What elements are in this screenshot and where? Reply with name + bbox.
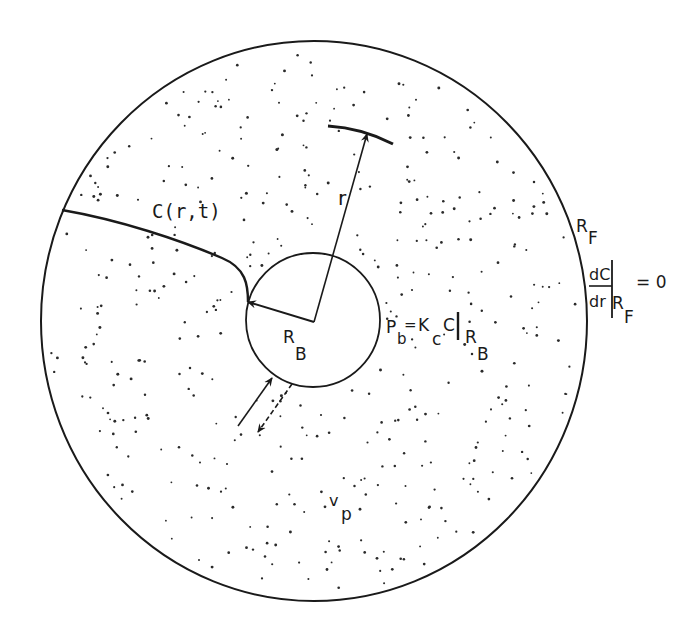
stipple-dot xyxy=(396,239,398,241)
stipple-dot xyxy=(514,243,516,245)
stipple-dot xyxy=(204,90,206,92)
stipple-dot xyxy=(383,582,385,584)
stipple-dot xyxy=(307,217,309,219)
stipple-dot xyxy=(187,388,189,390)
stipple-dot xyxy=(278,176,280,178)
stipple-dot xyxy=(428,273,430,275)
stipple-dot xyxy=(225,488,227,490)
stipple-dot xyxy=(158,297,160,299)
stipple-dot xyxy=(290,458,293,461)
stipple-dot xyxy=(280,245,282,247)
stipple-dot xyxy=(505,399,508,402)
stipple-dot xyxy=(105,276,108,279)
stipple-dot xyxy=(116,373,119,376)
stipple-dot xyxy=(402,84,404,86)
stipple-dot xyxy=(426,151,429,154)
stipple-dot xyxy=(522,327,525,330)
stipple-dot xyxy=(289,531,292,534)
stipple-dot xyxy=(525,409,527,411)
svg-text:=: = xyxy=(404,316,417,334)
stipple-dot xyxy=(513,245,515,247)
stipple-dot xyxy=(305,112,307,114)
stipple-dot xyxy=(97,306,99,308)
stipple-dot xyxy=(113,420,116,423)
stipple-dot xyxy=(403,558,406,561)
stipple-dot xyxy=(153,290,156,293)
stipple-dot xyxy=(160,449,162,451)
stipple-dot xyxy=(353,153,355,155)
radius-shell-arc xyxy=(328,126,393,144)
stipple-dot xyxy=(94,182,96,184)
stipple-dot xyxy=(191,454,194,457)
stipple-dot xyxy=(303,169,306,172)
stipple-dot xyxy=(135,303,137,305)
inner-sphere-boundary xyxy=(246,253,380,387)
stipple-dot xyxy=(97,199,100,202)
stipple-dot xyxy=(320,414,322,416)
stipple-dot xyxy=(197,335,200,338)
stipple-dot xyxy=(96,312,99,315)
stipple-dot xyxy=(211,566,214,569)
stipple-dot xyxy=(444,136,446,138)
stipple-dot xyxy=(403,452,405,454)
stipple-dot xyxy=(107,474,110,477)
stipple-dot xyxy=(236,64,239,67)
stipple-dot xyxy=(416,419,418,421)
stipple-dot xyxy=(558,282,560,284)
stipple-dot xyxy=(307,578,309,580)
stipple-dot xyxy=(399,211,402,214)
stipple-dot xyxy=(402,374,404,376)
stipple-dot xyxy=(380,421,383,424)
stipple-dot xyxy=(211,91,213,93)
svg-text:R: R xyxy=(612,293,624,313)
stipple-dot xyxy=(147,236,150,239)
concentration-profile-curve xyxy=(62,210,248,302)
stipple-dot xyxy=(240,197,242,199)
stipple-dot xyxy=(468,220,470,222)
stipple-dot xyxy=(225,79,227,81)
stipple-dot xyxy=(394,465,397,468)
stipple-dot xyxy=(193,275,195,277)
stipple-dot xyxy=(260,264,263,267)
stipple-dot xyxy=(481,271,483,273)
stipple-dot xyxy=(479,218,482,221)
stipple-dot xyxy=(245,192,248,195)
stipple-dot xyxy=(363,551,366,554)
stipple-dot xyxy=(469,126,471,128)
stipple-dot xyxy=(525,249,527,251)
stipple-dot xyxy=(430,212,433,215)
stipple-dot xyxy=(408,408,411,411)
svg-text:= 0: = 0 xyxy=(636,272,666,292)
stipple-dot xyxy=(152,261,155,264)
stipple-dot xyxy=(493,207,496,210)
stipple-dot xyxy=(220,491,222,493)
stipple-dot xyxy=(111,361,113,363)
stipple-dot xyxy=(360,479,362,481)
stipple-dot xyxy=(212,305,215,308)
stipple-dot xyxy=(174,226,176,228)
stipple-dot xyxy=(374,259,376,261)
stipple-dot xyxy=(457,157,460,160)
stipple-dot xyxy=(542,201,545,204)
stipple-dot xyxy=(449,289,451,291)
stipple-dot xyxy=(414,405,417,408)
stipple-dot xyxy=(183,91,185,93)
svg-text:R: R xyxy=(283,327,295,347)
stipple-dot xyxy=(395,502,397,504)
stipple-dot xyxy=(252,548,254,550)
stipple-dot xyxy=(171,538,173,540)
stipple-dot xyxy=(178,446,181,449)
stipple-dot xyxy=(147,417,150,420)
stipple-dot xyxy=(542,193,544,195)
stipple-dot xyxy=(377,266,380,269)
stipple-dot xyxy=(424,223,426,225)
stipple-dot xyxy=(151,247,154,250)
stipple-dot xyxy=(116,446,118,448)
stipple-dot xyxy=(184,321,186,323)
stipple-dot xyxy=(320,490,323,493)
svg-text:R: R xyxy=(576,216,588,236)
stipple-dot xyxy=(99,430,101,432)
stipple-dot xyxy=(163,180,166,183)
stipple-dot xyxy=(406,179,408,181)
stipple-dot xyxy=(116,194,119,197)
